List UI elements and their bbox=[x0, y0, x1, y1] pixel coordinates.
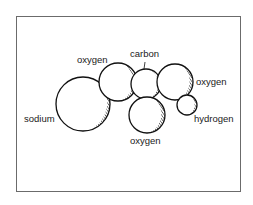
label-sodium: sodium bbox=[24, 114, 55, 124]
hydrogen-atom bbox=[177, 95, 197, 115]
label-oxygen-right: oxygen bbox=[196, 77, 227, 87]
label-oxygen-top-left: oxygen bbox=[77, 55, 108, 65]
label-oxygen-bottom: oxygen bbox=[130, 136, 161, 146]
carbon-leader-line bbox=[144, 62, 145, 69]
label-carbon: carbon bbox=[130, 49, 159, 59]
oxygen-atom-bottom bbox=[129, 97, 165, 133]
molecule-diagram bbox=[0, 0, 253, 205]
label-hydrogen: hydrogen bbox=[194, 114, 234, 124]
